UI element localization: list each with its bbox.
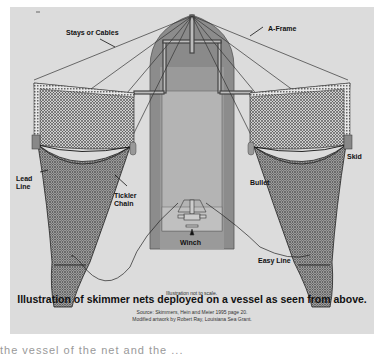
figure-title: Illustration of skimmer nets deployed on… [10, 293, 374, 305]
label-bullet: Bullet [250, 179, 269, 187]
label-lead-line: Lead Line [16, 175, 32, 191]
label-a-frame: A-Frame [268, 25, 296, 33]
right-skimmer-net [248, 83, 352, 307]
label-winch: Winch [180, 239, 201, 247]
skimmer-illustration: Stays or Cables A-Frame Lead Line Tickle… [10, 7, 374, 334]
vessel-diagram [10, 7, 374, 334]
label-skid: Skid [347, 153, 362, 161]
figure-source: Source: Skimmers, Hein and Meier 1995 pa… [10, 309, 374, 323]
label-stays-or-cables: Stays or Cables [66, 29, 119, 37]
label-tickler-chain: Tickler Chain [114, 192, 136, 208]
truncated-body-text: the vessel of the net and the ... [0, 344, 386, 358]
label-easy-line: Easy Line [258, 257, 291, 265]
